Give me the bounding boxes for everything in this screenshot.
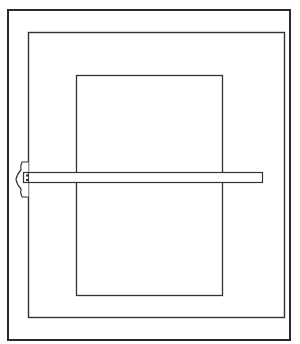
t-square-screw-icon xyxy=(26,179,28,181)
paper-sheet xyxy=(77,76,223,296)
drawing-board-diagram xyxy=(0,0,300,344)
t-square-blade xyxy=(24,173,263,183)
t-square-screw-icon xyxy=(26,175,28,177)
